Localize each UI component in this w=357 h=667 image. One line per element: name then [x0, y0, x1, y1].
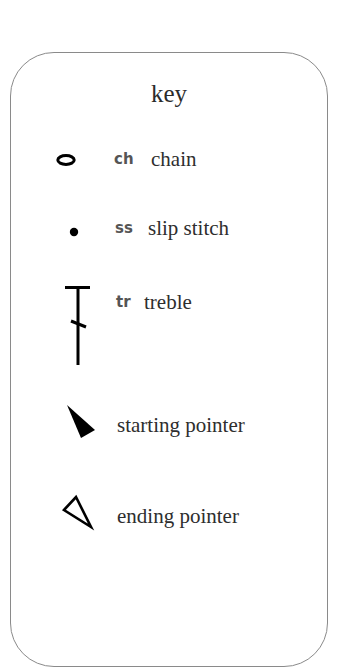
label-chain: chain: [151, 149, 196, 170]
abbr-slip-stitch: ss: [115, 221, 133, 236]
chain-oval-icon: [55, 152, 79, 168]
label-starting-pointer: starting pointer: [117, 415, 245, 436]
label-slip-stitch: slip stitch: [148, 218, 229, 239]
treble-stitch-icon: [62, 283, 94, 369]
label-treble: treble: [144, 292, 192, 313]
label-ending-pointer: ending pointer: [117, 506, 239, 527]
abbr-treble: tr: [116, 295, 131, 310]
stitch-key-card: [10, 52, 328, 667]
outline-triangle-icon: [58, 491, 98, 533]
filled-triangle-icon: [62, 400, 100, 442]
slip-stitch-dot-icon: [68, 226, 80, 238]
abbr-chain: ch: [114, 152, 134, 167]
key-title: key: [0, 80, 338, 108]
